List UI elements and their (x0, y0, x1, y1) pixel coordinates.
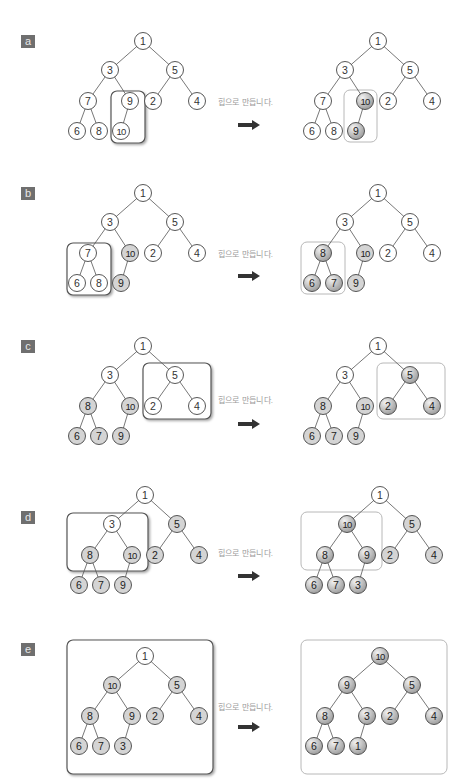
svg-text:10: 10 (128, 550, 137, 561)
svg-text:3: 3 (342, 216, 348, 228)
svg-text:3: 3 (342, 64, 348, 76)
svg-text:6: 6 (309, 430, 315, 442)
svg-text:8: 8 (322, 710, 328, 722)
tree-node: 5 (402, 214, 419, 231)
svg-text:10: 10 (361, 248, 370, 259)
svg-text:10: 10 (343, 519, 352, 530)
tree-node: 2 (147, 708, 164, 725)
tree-node: 4 (189, 398, 206, 415)
svg-text:10: 10 (126, 401, 135, 412)
svg-text:9: 9 (127, 95, 133, 107)
svg-text:4: 4 (429, 247, 435, 259)
tree-b-before: 13571024689 (67, 185, 206, 296)
svg-text:7: 7 (333, 579, 339, 591)
svg-text:9: 9 (344, 679, 350, 691)
tree-node: 9 (348, 123, 365, 140)
tree-node: 3 (337, 367, 354, 384)
tree-node: 5 (402, 367, 419, 384)
tree-node: 1 (137, 487, 154, 504)
tree-node: 2 (380, 398, 397, 415)
tree-node: 6 (306, 577, 323, 594)
tree-node: 1 (370, 338, 387, 355)
svg-text:6: 6 (311, 740, 317, 752)
svg-text:10: 10 (361, 401, 370, 412)
tree-node: 2 (147, 547, 164, 564)
svg-text:5: 5 (409, 518, 415, 530)
tree-node: 9 (122, 93, 139, 110)
svg-text:3: 3 (342, 369, 348, 381)
tree-node: 1 (135, 33, 152, 50)
tree-e-before: 11058924673 (67, 640, 213, 774)
tree-c-after: 13581024679 (304, 338, 446, 445)
tree-node: 2 (145, 93, 162, 110)
svg-text:1: 1 (375, 340, 381, 352)
svg-text:6: 6 (74, 125, 80, 137)
tree-node: 6 (304, 123, 321, 140)
tree-node: 3 (337, 62, 354, 79)
tree-node: 5 (402, 62, 419, 79)
svg-text:3: 3 (107, 369, 113, 381)
tree-node: 5 (169, 677, 186, 694)
svg-text:2: 2 (152, 549, 158, 561)
tree-node: 4 (424, 398, 441, 415)
svg-text:3: 3 (355, 579, 361, 591)
tree-node: 6 (69, 275, 86, 292)
tree-c-before: 13581024679 (69, 338, 212, 445)
svg-text:5: 5 (409, 679, 415, 691)
svg-text:10: 10 (376, 651, 385, 662)
svg-text:4: 4 (194, 400, 200, 412)
tree-node: 7 (93, 738, 110, 755)
tree-node: 10 (113, 123, 130, 140)
tree-node: 1 (135, 338, 152, 355)
tree-node: 6 (69, 123, 86, 140)
tree-node: 4 (189, 245, 206, 262)
tree-node: 7 (91, 428, 108, 445)
tree-node: 10 (357, 245, 374, 262)
tree-a-after: 13571024689 (304, 33, 441, 143)
svg-text:8: 8 (85, 400, 91, 412)
svg-text:7: 7 (85, 95, 91, 107)
tree-node: 4 (189, 93, 206, 110)
svg-text:9: 9 (353, 125, 359, 137)
tree-node: 4 (426, 708, 443, 725)
svg-text:7: 7 (320, 95, 326, 107)
svg-text:1: 1 (375, 35, 381, 47)
svg-text:5: 5 (172, 369, 178, 381)
svg-text:6: 6 (309, 277, 315, 289)
tree-node: 6 (71, 577, 88, 594)
tree-node: 7 (326, 275, 343, 292)
svg-text:4: 4 (429, 95, 435, 107)
tree-node: 1 (370, 33, 387, 50)
tree-b-after: 13581024679 (301, 185, 441, 295)
svg-text:8: 8 (320, 247, 326, 259)
tree-node: 4 (426, 547, 443, 564)
svg-text:3: 3 (109, 518, 115, 530)
svg-text:8: 8 (87, 710, 93, 722)
tree-node: 1 (137, 648, 154, 665)
tree-node: 7 (328, 738, 345, 755)
svg-text:2: 2 (387, 549, 393, 561)
tree-node: 4 (191, 547, 208, 564)
tree-node: 3 (337, 214, 354, 231)
tree-node: 9 (359, 547, 376, 564)
tree-node: 8 (82, 547, 99, 564)
svg-text:1: 1 (140, 340, 146, 352)
tree-node: 8 (317, 547, 334, 564)
tree-node: 2 (380, 93, 397, 110)
tree-node: 8 (91, 275, 108, 292)
tree-node: 5 (167, 214, 184, 231)
tree-node: 6 (304, 275, 321, 292)
tree-node: 10 (357, 398, 374, 415)
tree-node: 4 (424, 93, 441, 110)
svg-text:9: 9 (364, 549, 370, 561)
svg-text:2: 2 (150, 247, 156, 259)
svg-text:1: 1 (142, 489, 148, 501)
svg-text:6: 6 (311, 579, 317, 591)
svg-text:5: 5 (407, 369, 413, 381)
tree-node: 9 (115, 577, 132, 594)
svg-text:4: 4 (196, 710, 202, 722)
svg-text:7: 7 (98, 579, 104, 591)
svg-text:9: 9 (353, 430, 359, 442)
heap-construction-diagram: a b c d e 힙으로 만듭니다. 힙으로 만듭니다. 힙으로 만듭니다. … (0, 0, 476, 779)
svg-text:3: 3 (107, 216, 113, 228)
